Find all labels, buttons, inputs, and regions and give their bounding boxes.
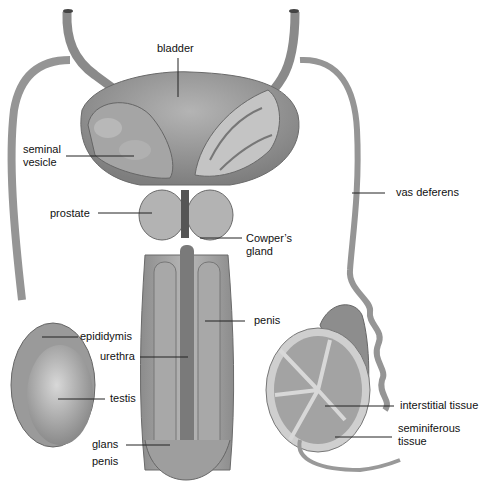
label-cowpers-gland-line1: Cowper’s	[246, 232, 292, 245]
label-vas-deferens: vas deferens	[396, 186, 459, 199]
label-seminiferous-tissue-line2: tissue	[398, 435, 427, 448]
label-bladder: bladder	[157, 42, 194, 55]
label-epididymis: epididymis	[80, 330, 132, 343]
anatomy-diagram	[0, 0, 480, 486]
label-glans-penis-line2: penis	[92, 455, 118, 468]
label-cowpers-gland-line2: gland	[246, 245, 273, 258]
label-testis: testis	[110, 392, 136, 405]
label-penis: penis	[254, 314, 280, 327]
label-interstitial-tissue: interstitial tissue	[400, 399, 478, 412]
label-prostate: prostate	[50, 207, 90, 220]
label-seminal-vesicle-line2: vesicle	[23, 156, 57, 169]
prostate-shape	[139, 190, 233, 240]
label-seminal-vesicle-line1: seminal	[23, 143, 61, 156]
label-urethra: urethra	[100, 350, 135, 363]
label-glans-penis-line1: glans	[92, 438, 118, 451]
label-seminiferous-tissue-line1: seminiferous	[398, 422, 460, 435]
